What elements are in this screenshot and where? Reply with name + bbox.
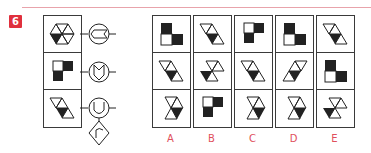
hourglass-right-figure bbox=[153, 90, 190, 127]
option-c-cell-1 bbox=[235, 16, 272, 53]
option-a-cell-3 bbox=[153, 90, 190, 127]
option-c-cell-3 bbox=[235, 90, 272, 127]
circle-chevron-icon bbox=[80, 20, 120, 48]
stem-cell-2 bbox=[44, 53, 81, 90]
slanted-parallelogram-figure bbox=[194, 16, 231, 53]
diamond-r-icon bbox=[89, 121, 109, 145]
stem-column bbox=[43, 15, 82, 128]
hourglass-bowtie-figure bbox=[194, 53, 231, 90]
option-label-d[interactable]: D bbox=[275, 133, 312, 144]
hourglass-bowtie-figure bbox=[317, 90, 354, 127]
l-squares-figure bbox=[153, 16, 190, 53]
stem-cell-3 bbox=[44, 90, 81, 127]
option-a-cell-1 bbox=[153, 16, 190, 53]
hourglass-bowtie-figure bbox=[44, 16, 81, 53]
symbol-circle-chevron bbox=[80, 20, 120, 48]
slanted-parallelogram-figure bbox=[153, 53, 190, 90]
slanted-parallelogram-left-figure bbox=[276, 53, 313, 90]
option-a[interactable] bbox=[152, 15, 191, 128]
option-c-cell-2 bbox=[235, 53, 272, 90]
option-e-cell-2 bbox=[317, 53, 354, 90]
symbol-circle-u bbox=[80, 96, 120, 148]
option-d-cell-1 bbox=[276, 16, 313, 53]
option-e[interactable] bbox=[316, 15, 355, 128]
option-b-cell-1 bbox=[194, 16, 231, 53]
option-d-cell-3 bbox=[276, 90, 313, 127]
option-b-cell-2 bbox=[194, 53, 231, 90]
option-b[interactable] bbox=[193, 15, 232, 128]
hourglass-right-figure bbox=[276, 90, 313, 127]
option-a-cell-2 bbox=[153, 53, 190, 90]
symbol-circle-shield bbox=[80, 58, 120, 86]
option-e-cell-1 bbox=[317, 16, 354, 53]
circle-u-icon bbox=[80, 96, 120, 148]
option-c[interactable] bbox=[234, 15, 273, 128]
option-label-c[interactable]: C bbox=[234, 133, 271, 144]
l-squares-figure bbox=[194, 90, 231, 127]
option-label-a[interactable]: A bbox=[152, 133, 189, 144]
option-d-cell-2 bbox=[276, 53, 313, 90]
option-b-cell-3 bbox=[194, 90, 231, 127]
option-label-b[interactable]: B bbox=[193, 133, 230, 144]
l-squares-figure bbox=[317, 53, 354, 90]
option-e-cell-3 bbox=[317, 90, 354, 127]
circle-shield-m-icon bbox=[80, 58, 120, 86]
l-squares-figure bbox=[44, 53, 81, 90]
l-squares-figure bbox=[235, 16, 272, 53]
l-squares-figure bbox=[276, 16, 313, 53]
question-number-badge: 6 bbox=[9, 15, 22, 28]
option-label-e[interactable]: E bbox=[316, 133, 353, 144]
hourglass-right-figure bbox=[235, 90, 272, 127]
stem-cell-1 bbox=[44, 16, 81, 53]
option-d[interactable] bbox=[275, 15, 314, 128]
slanted-parallelogram-figure bbox=[317, 16, 354, 53]
slanted-parallelogram-figure bbox=[235, 53, 272, 90]
header-divider bbox=[22, 7, 371, 8]
slanted-parallelogram-figure bbox=[44, 90, 81, 127]
